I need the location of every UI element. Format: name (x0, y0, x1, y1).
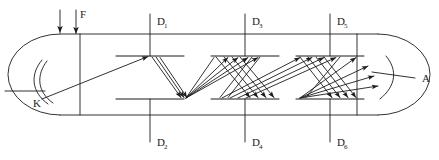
vessel-schematic: F K A D 1 D 3 D 5 D 2 (0, 0, 439, 160)
spray-cross-strands (186, 57, 340, 98)
label-d6: D 6 (337, 136, 348, 151)
label-layer: F K A D 1 D 3 D 5 D 2 (33, 8, 430, 151)
a-swirl-arc (380, 56, 394, 99)
label-d2: D 2 (157, 136, 168, 151)
spray-stage-1 (152, 57, 187, 98)
label-feed: F (80, 8, 86, 20)
svg-text:1: 1 (164, 22, 168, 30)
svg-text:6: 6 (344, 143, 348, 151)
inlet-jet (42, 57, 148, 100)
svg-text:4: 4 (259, 143, 263, 151)
label-d5: D 5 (337, 15, 348, 30)
label-a: A (422, 72, 430, 84)
label-d3: D 3 (252, 15, 263, 30)
label-d4: D 4 (252, 136, 263, 151)
svg-text:3: 3 (259, 22, 263, 30)
feed-arrows (60, 10, 76, 34)
diagram-canvas: F K A D 1 D 3 D 5 D 2 (0, 0, 439, 160)
svg-text:5: 5 (344, 22, 348, 30)
nozzle-stubs (150, 14, 330, 142)
label-k: K (33, 97, 41, 109)
vessel-outline (8, 34, 430, 115)
label-d1: D 1 (157, 15, 168, 30)
svg-text:2: 2 (164, 143, 168, 151)
